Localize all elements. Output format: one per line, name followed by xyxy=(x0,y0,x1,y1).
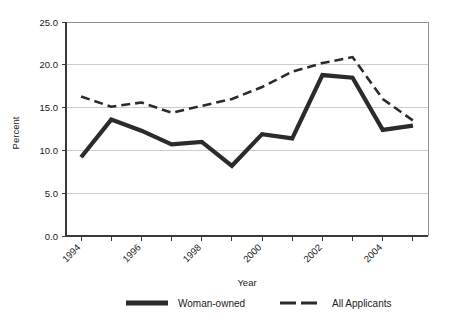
x-tick-label: 2000 xyxy=(241,242,264,265)
chart-container: 0.05.010.015.020.025.0 19941996199820002… xyxy=(0,0,457,320)
y-tick-label: 15.0 xyxy=(40,102,59,113)
x-axis-title: Year xyxy=(237,277,256,288)
legend-label-woman-owned: Woman-owned xyxy=(178,298,245,309)
line-chart: 0.05.010.015.020.025.0 19941996199820002… xyxy=(0,0,457,320)
plot-background xyxy=(66,22,428,236)
y-axis-title: Percent xyxy=(10,116,21,149)
y-tick-label: 10.0 xyxy=(40,145,59,156)
x-tick-label: 1994 xyxy=(60,242,83,265)
y-axis-tick-labels: 0.05.010.015.020.025.0 xyxy=(40,17,59,242)
y-tick-label: 25.0 xyxy=(40,17,59,28)
x-axis-ticks xyxy=(81,236,413,241)
x-tick-label: 1996 xyxy=(120,242,143,265)
x-axis-tick-labels: 199419961998200020022004 xyxy=(60,242,384,265)
y-axis-ticks xyxy=(62,22,66,236)
y-tick-label: 0.0 xyxy=(45,231,58,242)
legend-label-all-applicants: All Applicants xyxy=(332,298,391,309)
x-tick-label: 2002 xyxy=(301,242,324,265)
y-tick-label: 5.0 xyxy=(45,188,58,199)
x-tick-label: 2004 xyxy=(361,242,384,265)
y-tick-label: 20.0 xyxy=(40,59,59,70)
chart-legend: Woman-owned All Applicants xyxy=(126,298,391,309)
x-tick-label: 1998 xyxy=(180,242,203,265)
